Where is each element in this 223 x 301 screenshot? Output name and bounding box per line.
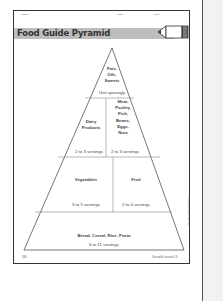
bread-cereal-label: Bread, Cereal, Rice, Pasta bbox=[34, 233, 174, 239]
copyright-credit: © Houghton Mifflin Company bbox=[187, 196, 190, 227]
adjacent-page-edge bbox=[202, 0, 223, 301]
fruit-label: Fruit bbox=[113, 177, 159, 183]
dairy-servings: 2 to 3 servings bbox=[70, 149, 108, 155]
vegetables-servings: 3 to 5 servings bbox=[59, 202, 113, 208]
bread-servings: 6 to 11 servings bbox=[34, 242, 174, 248]
fats-oils-sweets-label: Fats, Oils, Sweets bbox=[92, 66, 132, 85]
vegetables-label: Vegetables bbox=[59, 177, 113, 183]
lesson-reference: Use with Lesson 4.3 bbox=[152, 255, 177, 259]
sweets-line: Sweets bbox=[92, 78, 132, 84]
food-pyramid bbox=[14, 11, 191, 265]
page-number: 184 bbox=[22, 255, 27, 259]
dairy-label: Dairy Products bbox=[76, 119, 106, 131]
meat-label: Meat, Poultry, Fish, Beans, Eggs, Nuts bbox=[106, 99, 140, 136]
nuts-line: Nuts bbox=[106, 130, 140, 136]
meat-servings: 2 to 3 servings bbox=[106, 149, 144, 155]
fats-servings: Use sparingly bbox=[87, 90, 137, 96]
products-line: Products bbox=[76, 125, 106, 131]
fruit-servings: 2 to 4 servings bbox=[113, 202, 159, 208]
worksheet-page: Name Date Time Food Guide Pyramid Fats, … bbox=[13, 10, 190, 264]
